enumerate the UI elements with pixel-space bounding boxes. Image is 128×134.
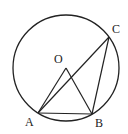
geometry-figure: O A B C <box>0 0 128 134</box>
label-O: O <box>54 52 63 66</box>
segment-OB <box>66 68 92 114</box>
circle-diagram: O A B C <box>0 0 128 134</box>
segment-AC <box>38 37 109 113</box>
label-C: C <box>112 22 120 36</box>
segment-OA <box>38 68 66 113</box>
label-B: B <box>95 116 103 130</box>
segment-AB <box>38 113 92 114</box>
label-A: A <box>25 115 34 129</box>
